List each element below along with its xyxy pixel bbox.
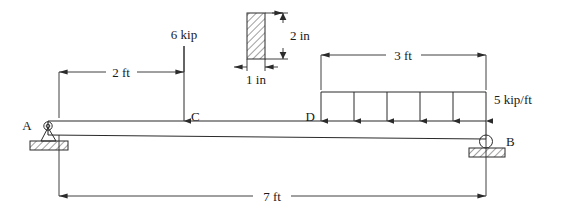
support-a-pin [30, 122, 68, 150]
cross-section-rect [247, 13, 265, 59]
distributed-load-5kipft: 5 kip/ft [321, 92, 532, 121]
cross-height-arrow-down [280, 52, 287, 59]
node-label-b: B [506, 134, 515, 149]
distributed-load-label: 5 kip/ft [494, 92, 532, 107]
cross-height-label: 2 in [290, 28, 310, 43]
beam-bottom-edge [48, 135, 486, 139]
dim-2ft-label: 2 ft [112, 65, 130, 80]
roller-ground-pad [469, 148, 505, 157]
cross-width-label: 1 in [246, 72, 266, 87]
dim-3ft-label: 3 ft [394, 48, 412, 63]
beam-body [48, 121, 486, 139]
point-load-label: 6 kip [171, 27, 197, 42]
node-label-a: A [22, 118, 32, 133]
beam-diagram-canvas: A B C D 6 kip 5 kip/ft [0, 0, 563, 217]
dimension-2ft: 2 ft [59, 46, 184, 118]
dimension-3ft: 3 ft [321, 48, 486, 90]
pin-ground-pad [30, 141, 68, 150]
node-label-d: D [306, 109, 315, 124]
dim-7ft-label: 7 ft [263, 189, 281, 204]
point-load-6kip: 6 kip [171, 27, 197, 121]
node-label-c: C [191, 109, 200, 124]
dimension-7ft: 7 ft [59, 135, 486, 204]
support-b-roller [469, 135, 505, 157]
beam-diagram-figure: A B C D 6 kip 5 kip/ft [0, 0, 563, 217]
cross-section-detail: 2 in 1 in [234, 13, 310, 87]
cross-height-arrow-up [280, 13, 287, 20]
